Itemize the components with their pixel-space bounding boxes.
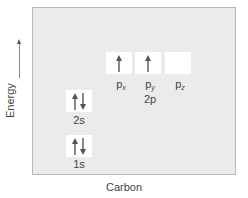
diagram-panel xyxy=(32,7,236,175)
energy-axis-arrow-icon xyxy=(19,42,20,78)
spin-down-arrow-icon xyxy=(79,138,87,155)
orbital-subscript: z xyxy=(181,84,185,91)
spin-up-arrow-icon xyxy=(144,55,152,72)
orbital-label-py: py xyxy=(139,78,161,91)
spin-up-arrow-icon xyxy=(71,138,79,155)
orbital-box-2py xyxy=(135,52,161,74)
x-axis-label: Carbon xyxy=(0,181,248,193)
orbital-box-2s xyxy=(66,90,92,112)
orbital-box-2pz xyxy=(165,52,191,74)
spin-up-arrow-icon xyxy=(71,93,79,110)
orbital-label-1s: 1s xyxy=(66,158,92,170)
orbital-label-2s: 2s xyxy=(66,114,92,126)
orbital-label-pz: pz xyxy=(169,78,191,91)
y-axis-label: Energy xyxy=(4,83,16,118)
orbital-subscript: x xyxy=(122,84,126,91)
orbital-group-label-2p: 2p xyxy=(138,93,162,105)
orbital-label-px: px xyxy=(110,78,132,91)
spin-up-arrow-icon xyxy=(115,55,123,72)
orbital-box-2px xyxy=(106,52,132,74)
spin-down-arrow-icon xyxy=(79,93,87,110)
orbital-box-1s xyxy=(66,135,92,157)
orbital-subscript: y xyxy=(151,84,155,91)
